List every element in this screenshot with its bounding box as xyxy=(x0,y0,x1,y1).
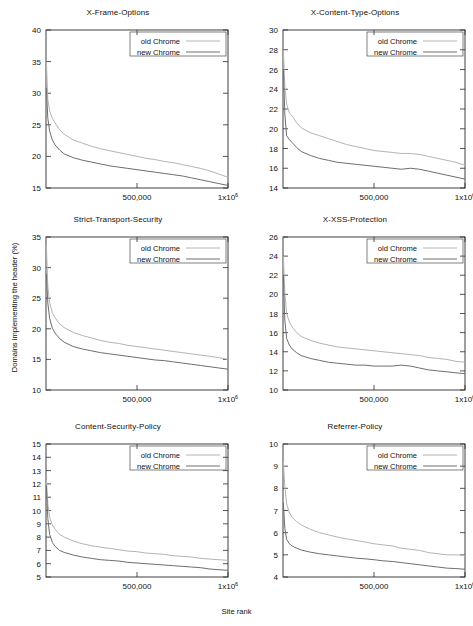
legend-label-new-chrome: new Chrome xyxy=(137,462,180,471)
x-tick-label: 500,000 xyxy=(360,193,389,202)
series-line-old-chrome xyxy=(46,480,228,560)
y-axis-label: Domains implementing the header (%) xyxy=(10,208,19,408)
legend-label-old-chrome: old Chrome xyxy=(378,244,417,253)
y-tick-label: 20 xyxy=(269,290,278,299)
y-tick-label: 24 xyxy=(269,252,278,261)
x-tick-label: 500,000 xyxy=(123,193,152,202)
y-tick-label: 22 xyxy=(269,271,278,280)
legend-label-old-chrome: old Chrome xyxy=(378,451,417,460)
y-tick-label: 8 xyxy=(37,533,42,542)
y-tick-label: 24 xyxy=(269,85,278,94)
y-tick-label: 20 xyxy=(269,125,278,134)
x-tick-label: 1x106 xyxy=(455,581,473,591)
y-tick-label: 14 xyxy=(269,348,278,357)
panel-title: X-Frame-Options xyxy=(0,8,236,17)
x-tick-label: 1x106 xyxy=(455,192,473,202)
y-tick-label: 14 xyxy=(269,184,278,193)
legend-label-old-chrome: old Chrome xyxy=(141,244,180,253)
x-tick-label: 1x106 xyxy=(218,192,238,202)
plot-area: 101214161820222426500,0001x106old Chrome… xyxy=(237,215,473,420)
y-tick-label: 7 xyxy=(274,507,279,516)
series-line-new-chrome xyxy=(46,88,228,185)
y-tick-label: 16 xyxy=(269,329,278,338)
y-tick-label: 18 xyxy=(269,145,278,154)
panel-title: Strict-Transport-Security xyxy=(0,215,236,224)
panel-title: Referrer-Policy xyxy=(237,422,473,431)
panel-referrer-policy: Referrer-Policy 45678910500,0001x106old … xyxy=(237,422,473,607)
series-line-new-chrome xyxy=(283,503,465,570)
legend-label-old-chrome: old Chrome xyxy=(141,37,180,46)
series-line-new-chrome xyxy=(283,70,465,180)
legend-label-old-chrome: old Chrome xyxy=(378,37,417,46)
x-axis-label: Site rank xyxy=(0,607,473,616)
y-tick-label: 35 xyxy=(32,58,41,67)
legend-label-new-chrome: new Chrome xyxy=(374,462,417,471)
y-tick-label: 30 xyxy=(32,264,41,273)
panel-x-content-type-options: X-Content-Type-Options 14161820222426283… xyxy=(237,8,473,218)
y-tick-label: 9 xyxy=(274,462,279,471)
y-tick-label: 5 xyxy=(37,573,42,582)
y-tick-label: 10 xyxy=(32,507,41,516)
y-tick-label: 6 xyxy=(37,560,42,569)
plot-area: 101520253035500,0001x106old Chromenew Ch… xyxy=(0,215,236,420)
x-tick-label: 500,000 xyxy=(360,395,389,404)
x-tick-label: 500,000 xyxy=(123,582,152,591)
series-line-new-chrome xyxy=(46,485,228,570)
y-tick-label: 7 xyxy=(37,546,42,555)
series-line-old-chrome xyxy=(283,50,465,166)
y-tick-label: 8 xyxy=(274,484,279,493)
y-tick-label: 26 xyxy=(269,233,278,242)
panel-strict-transport-security: Strict-Transport-Security 10152025303550… xyxy=(0,215,236,420)
plot-area: 152025303540500,0001x106old Chromenew Ch… xyxy=(0,8,236,218)
x-tick-label: 500,000 xyxy=(123,395,152,404)
panel-title: X-XSS-Protection xyxy=(237,215,473,224)
y-tick-label: 6 xyxy=(274,529,279,538)
y-tick-label: 26 xyxy=(269,66,278,75)
y-tick-label: 12 xyxy=(269,367,278,376)
panel-title: Content-Security-Policy xyxy=(0,422,236,431)
y-tick-label: 30 xyxy=(269,26,278,35)
y-tick-label: 12 xyxy=(32,480,41,489)
panel-title: X-Content-Type-Options xyxy=(237,8,473,17)
x-tick-label: 1x106 xyxy=(455,394,473,404)
plot-area: 45678910500,0001x106old Chromenew Chrome xyxy=(237,422,473,607)
y-tick-label: 5 xyxy=(274,551,279,560)
panel-x-frame-options: X-Frame-Options 152025303540500,0001x106… xyxy=(0,8,236,218)
y-tick-label: 40 xyxy=(32,26,41,35)
series-line-old-chrome xyxy=(46,62,228,178)
plot-area: 56789101112131415500,0001x106old Chromen… xyxy=(0,422,236,607)
series-line-old-chrome xyxy=(283,462,465,556)
y-tick-label: 10 xyxy=(269,386,278,395)
series-line-old-chrome xyxy=(283,256,465,362)
y-tick-label: 20 xyxy=(32,325,41,334)
multi-panel-chart-figure: X-Frame-Options 152025303540500,0001x106… xyxy=(0,0,473,626)
y-tick-label: 15 xyxy=(32,355,41,364)
legend-label-new-chrome: new Chrome xyxy=(374,255,417,264)
legend-label-old-chrome: old Chrome xyxy=(141,451,180,460)
y-tick-label: 30 xyxy=(32,89,41,98)
y-tick-label: 15 xyxy=(32,184,41,193)
y-tick-label: 4 xyxy=(274,573,279,582)
legend-label-new-chrome: new Chrome xyxy=(374,48,417,57)
y-tick-label: 10 xyxy=(269,440,278,449)
y-tick-label: 16 xyxy=(269,164,278,173)
y-tick-label: 10 xyxy=(32,386,41,395)
legend-label-new-chrome: new Chrome xyxy=(137,255,180,264)
x-tick-label: 1x106 xyxy=(218,581,238,591)
y-tick-label: 13 xyxy=(32,467,41,476)
y-tick-label: 35 xyxy=(32,233,41,242)
x-tick-label: 1x106 xyxy=(218,394,238,404)
panel-x-xss-protection: X-XSS-Protection 101214161820222426500,0… xyxy=(237,215,473,420)
y-tick-label: 28 xyxy=(269,46,278,55)
y-tick-label: 14 xyxy=(32,453,41,462)
y-tick-label: 22 xyxy=(269,105,278,114)
x-tick-label: 500,000 xyxy=(360,582,389,591)
y-tick-label: 25 xyxy=(32,121,41,130)
y-tick-label: 20 xyxy=(32,152,41,161)
plot-area: 141618202224262830500,0001x106old Chrome… xyxy=(237,8,473,218)
y-tick-label: 18 xyxy=(269,310,278,319)
y-tick-label: 25 xyxy=(32,294,41,303)
y-tick-label: 15 xyxy=(32,440,41,449)
y-tick-label: 9 xyxy=(37,520,42,529)
panel-content-security-policy: Content-Security-Policy 5678910111213141… xyxy=(0,422,236,607)
